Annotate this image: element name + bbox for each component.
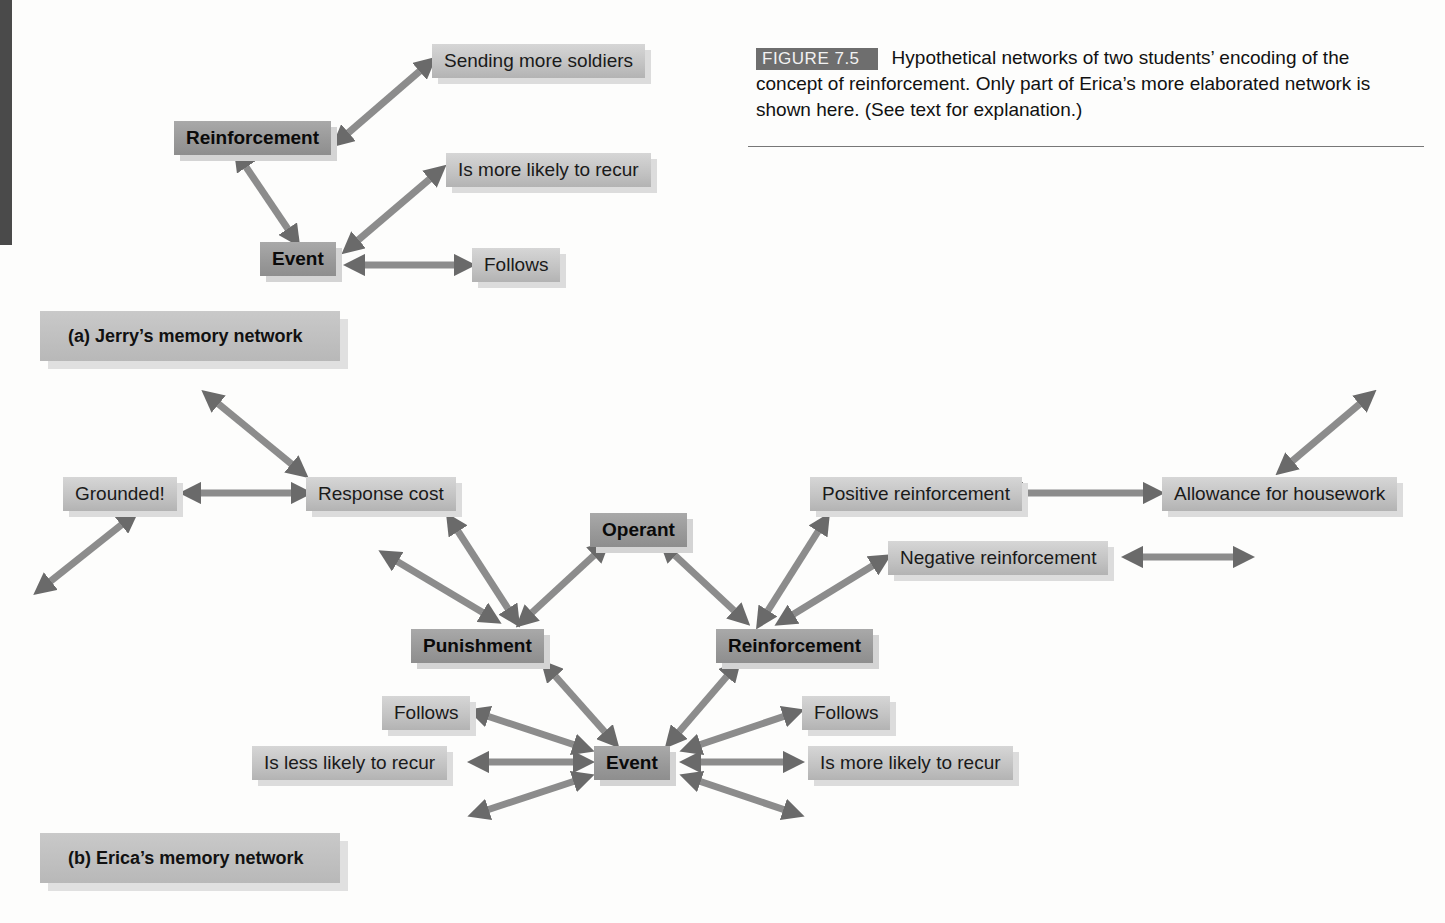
node-b-event: Event	[594, 746, 670, 780]
node-b-positive-reinforcement: Positive reinforcement	[810, 477, 1022, 511]
node-a-follows: Follows	[472, 248, 560, 282]
node-b-punishment: Punishment	[411, 629, 544, 663]
node-a-is-more-likely: Is more likely to recur	[446, 153, 651, 187]
node-b-follows-left: Follows	[382, 696, 470, 730]
node-a-event: Event	[260, 242, 336, 276]
node-a-sending-more-soldiers: Sending more soldiers	[432, 44, 645, 78]
node-b-response-cost: Response cost	[306, 477, 456, 511]
node-b-operant: Operant	[590, 513, 687, 547]
network-a-title: (a) Jerry’s memory network	[40, 311, 340, 361]
node-b-allowance-for-housework: Allowance for housework	[1162, 477, 1397, 511]
node-b-is-more-likely: Is more likely to recur	[808, 746, 1013, 780]
node-b-is-less-likely: Is less likely to recur	[252, 746, 447, 780]
node-a-reinforcement: Reinforcement	[174, 121, 331, 155]
network-b-title: (b) Erica’s memory network	[40, 833, 340, 883]
node-b-negative-reinforcement: Negative reinforcement	[888, 541, 1108, 575]
node-b-reinforcement: Reinforcement	[716, 629, 873, 663]
node-b-grounded: Grounded!	[63, 477, 177, 511]
node-b-follows-right: Follows	[802, 696, 890, 730]
